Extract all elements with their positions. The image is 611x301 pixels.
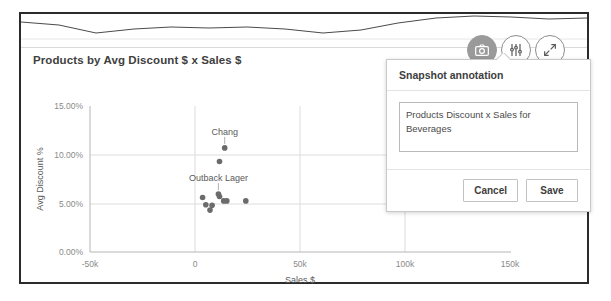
data-point[interactable]	[224, 198, 230, 204]
save-button[interactable]: Save	[526, 179, 578, 202]
data-point[interactable]	[207, 207, 213, 213]
data-label-group: ChangOutback Lager	[189, 127, 248, 190]
cancel-button[interactable]: Cancel	[463, 179, 518, 202]
y-tick-label: 0.00%	[59, 247, 84, 257]
expand-icon	[542, 42, 558, 58]
data-point-label: Outback Lager	[189, 173, 248, 183]
data-point[interactable]	[222, 145, 228, 151]
x-tick-label: 100k	[396, 259, 415, 269]
data-point-label: Chang	[211, 127, 238, 137]
y-axis-ticks: 15.00% 10.00% 5.00% 0.00%	[54, 101, 83, 257]
y-tick-label: 15.00%	[54, 101, 83, 111]
visualization-panel: Products by Avg Discount $ x Sales $ 15.…	[19, 12, 589, 284]
x-axis-title: Sales $	[285, 275, 315, 285]
x-tick-label: 150k	[501, 259, 520, 269]
x-tick-label: 50k	[293, 259, 307, 269]
popup-footer: Cancel Save	[387, 170, 590, 211]
sliders-icon	[508, 42, 524, 58]
data-point[interactable]	[217, 194, 223, 200]
popup-body	[387, 91, 590, 170]
data-point[interactable]	[243, 198, 249, 204]
snapshot-annotation-popup: Snapshot annotation Cancel Save	[386, 59, 591, 212]
x-tick-label: -50k	[82, 259, 99, 269]
x-axis-ticks: -50k 0 50k 100k 150k	[82, 259, 520, 269]
x-tick-label: 0	[193, 259, 198, 269]
y-tick-label: 10.00%	[54, 150, 83, 160]
data-point[interactable]	[203, 202, 209, 208]
data-point[interactable]	[217, 159, 223, 165]
data-point[interactable]	[209, 203, 215, 209]
screenshot-root: Products by Avg Discount $ x Sales $ 15.…	[0, 0, 611, 301]
popup-arrow	[497, 53, 510, 60]
y-tick-label: 5.00%	[59, 199, 84, 209]
annotation-input[interactable]	[399, 102, 578, 152]
sparkline-path	[21, 16, 587, 33]
popup-title: Snapshot annotation	[387, 60, 590, 91]
y-axis-title: Avg Discount %	[35, 147, 45, 210]
snapshot-icon	[474, 42, 490, 58]
data-point[interactable]	[200, 195, 206, 201]
